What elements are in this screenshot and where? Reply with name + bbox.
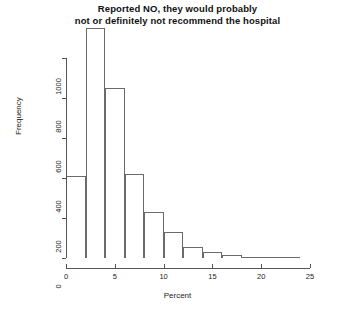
plot-area: 02004006008001000 Frequency 0510152025 P…: [0, 0, 355, 313]
x-axis-tick-label: 15: [200, 272, 224, 281]
x-axis-tick-label: 0: [54, 272, 78, 281]
y-axis-line: [66, 58, 67, 258]
x-axis-tick-label: 25: [298, 272, 322, 281]
y-axis-tick: [62, 58, 66, 59]
x-axis-tick-label: 20: [249, 272, 273, 281]
x-axis-tick: [261, 264, 262, 268]
x-axis-line: [66, 268, 310, 269]
y-axis-tick: [62, 178, 66, 179]
histogram-bar: [86, 28, 106, 258]
histogram-bar: [144, 212, 164, 258]
histogram-bar: [261, 257, 281, 258]
histogram-bar: [164, 232, 184, 258]
histogram-bar: [66, 176, 86, 258]
histogram-chart: Reported NO, they would probably not or …: [0, 0, 355, 313]
histogram-bar: [203, 252, 223, 258]
y-axis-title: Frequency: [14, 97, 23, 135]
x-axis-tick: [164, 264, 165, 268]
histogram-bar: [222, 255, 242, 258]
x-axis-tick: [310, 264, 311, 268]
x-axis-tick-label: 5: [103, 272, 127, 281]
y-axis-tick-label: 1000: [54, 58, 63, 116]
histogram-bar: [281, 257, 301, 258]
x-axis-title: Percent: [0, 291, 355, 300]
x-axis-tick: [212, 264, 213, 268]
histogram-bar: [242, 257, 262, 258]
y-axis-tick: [62, 258, 66, 259]
x-axis-tick: [66, 264, 67, 268]
x-axis-tick: [115, 264, 116, 268]
y-axis-tick: [62, 138, 66, 139]
histogram-bar: [125, 174, 145, 258]
y-axis-tick: [62, 218, 66, 219]
histogram-bar: [105, 88, 125, 258]
y-axis-tick: [62, 98, 66, 99]
x-axis-tick-label: 10: [152, 272, 176, 281]
histogram-bar: [183, 247, 203, 258]
